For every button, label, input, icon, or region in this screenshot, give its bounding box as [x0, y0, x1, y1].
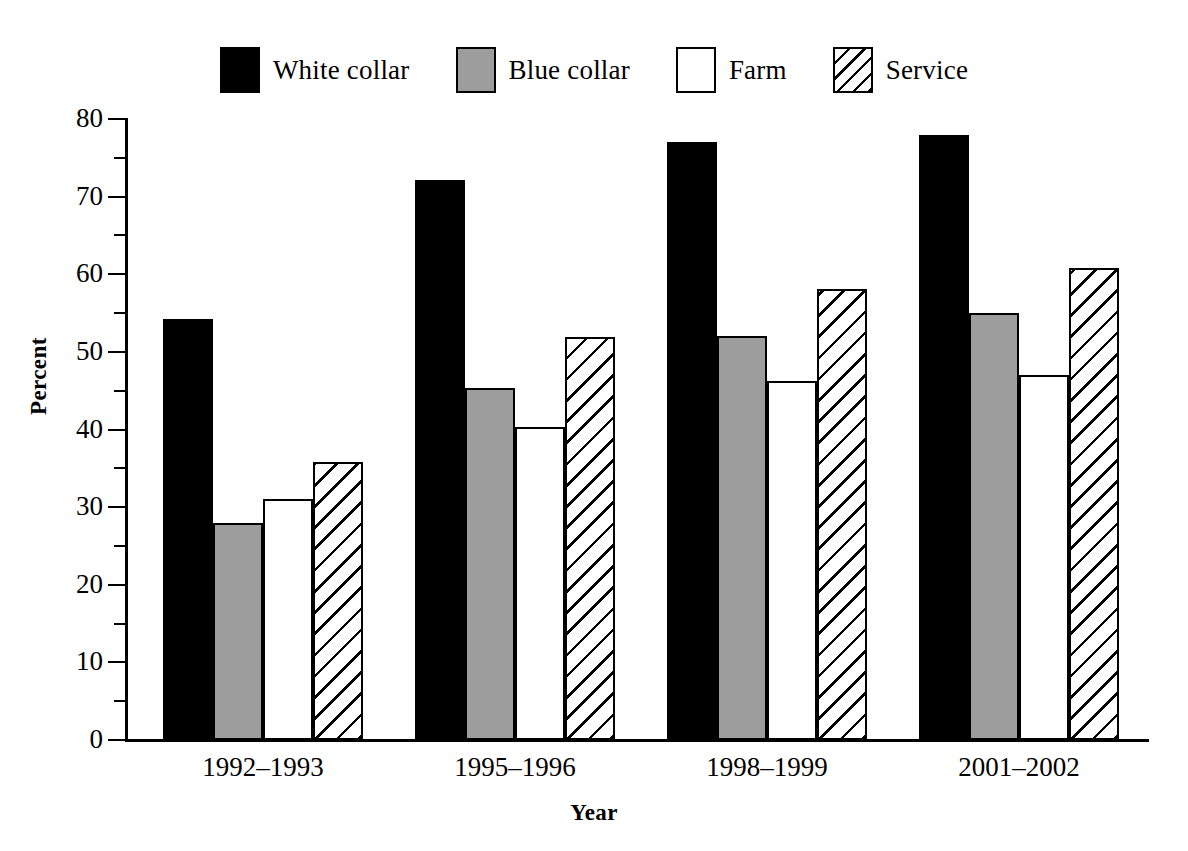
bar [415, 180, 465, 740]
bar [667, 142, 717, 740]
bar [313, 462, 363, 740]
plot-area: 01020304050607080 Percent 1992–19931995–… [0, 0, 1188, 851]
x-category-label: 2001–2002 [909, 752, 1129, 783]
bar-chart: White collarBlue collarFarmService 01020… [0, 0, 1188, 851]
bar [767, 381, 817, 740]
bar [565, 337, 615, 740]
bar [1069, 268, 1119, 740]
bar [969, 313, 1019, 740]
x-category-label: 1992–1993 [153, 752, 373, 783]
bar [1019, 375, 1069, 740]
bar [817, 289, 867, 740]
bar [263, 499, 313, 740]
x-axis-label: Year [0, 800, 1188, 826]
bar [163, 319, 213, 741]
bar [515, 427, 565, 740]
x-category-label: 1995–1996 [405, 752, 625, 783]
bar [717, 336, 767, 740]
x-category-label: 1998–1999 [657, 752, 877, 783]
bar [213, 523, 263, 740]
bars-layer [0, 0, 1188, 740]
bar [919, 135, 969, 740]
bar [465, 388, 515, 740]
